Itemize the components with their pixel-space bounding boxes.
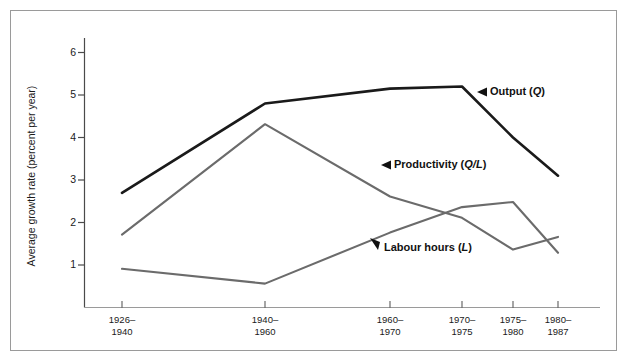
- output-annotation-arrow-icon: [477, 88, 487, 97]
- series-line-output: [122, 87, 558, 193]
- series-line-labour-hours: [122, 202, 558, 284]
- series-label-productivity: Productivity (Q/L): [394, 158, 486, 170]
- chart-plot-area: [0, 0, 629, 363]
- figure-container: 6 5 4 3 2 1 Average growth rate (percent…: [0, 0, 629, 363]
- y-tick-label-3: 3: [56, 173, 76, 185]
- y-tick-label-6: 6: [56, 46, 76, 58]
- productivity-annotation-arrow-icon: [381, 161, 391, 170]
- x-tick-label-0: 1926– 1940: [87, 314, 157, 338]
- y-tick-label-1: 1: [56, 258, 76, 270]
- y-axis-title: Average growth rate (percent per year): [25, 71, 37, 281]
- y-tick-label-5: 5: [56, 88, 76, 100]
- x-tick-label-1: 1940– 1960: [230, 314, 300, 338]
- series-line-productivity: [122, 124, 558, 249]
- x-tick-label-2: 1960– 1970: [355, 314, 425, 338]
- y-tick-label-2: 2: [56, 216, 76, 228]
- y-tick-label-4: 4: [56, 131, 76, 143]
- series-label-labour-hours: Labour hours (L): [384, 241, 472, 253]
- x-tick-label-5: 1980– 1987: [523, 314, 593, 338]
- series-label-output: Output (Q): [490, 85, 545, 97]
